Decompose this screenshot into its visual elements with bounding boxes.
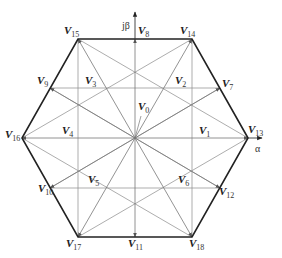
label-v13: V13 [248,123,263,138]
vector-v15 [78,39,135,138]
label-v8: V8 [138,24,149,39]
label-v18: V18 [189,237,204,252]
label-v10: V10 [38,182,53,197]
vector-v18 [135,138,192,237]
beta-axis-label: jβ [121,20,130,31]
space-vector-diagram: αjβ V15V8V14V9V3V2V7V0V16V4V1V13V10V5V6V… [0,0,282,258]
label-v9: V9 [37,74,48,89]
vector-v17 [78,138,135,237]
label-v12: V12 [219,185,234,200]
alpha-axis-label: α [255,143,261,154]
label-v6: V6 [178,173,189,188]
label-v16: V16 [5,128,20,143]
label-v11: V11 [128,237,143,252]
voltage-vectors [22,39,248,237]
label-v15: V15 [64,24,79,39]
label-v14: V14 [180,24,195,39]
label-v2: V2 [175,74,186,89]
label-v0: V0 [138,100,149,115]
label-v3: V3 [85,74,96,89]
label-v17: V17 [66,237,81,252]
label-v4: V4 [62,124,73,139]
label-v1: V1 [199,124,210,139]
label-v7: V7 [222,77,233,92]
label-v5: V5 [88,173,99,188]
hexagon-vector-canvas: αjβ V15V8V14V9V3V2V7V0V16V4V1V13V10V5V6V… [0,0,282,258]
